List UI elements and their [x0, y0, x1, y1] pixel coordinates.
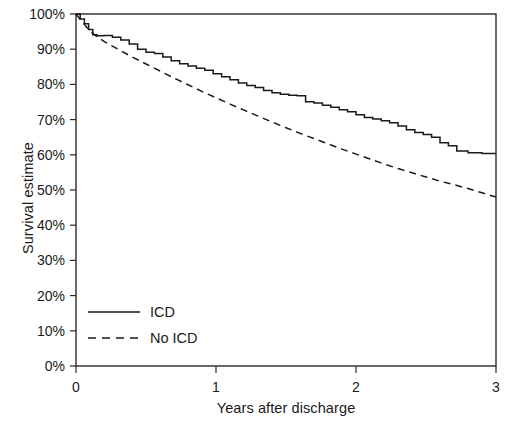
y-tick-label: 0%	[45, 358, 65, 374]
y-tick-label: 20%	[37, 288, 65, 304]
y-tick-label: 90%	[37, 41, 65, 57]
y-tick-label: 40%	[37, 217, 65, 233]
plot-frame	[76, 14, 496, 366]
x-tick-label: 0	[72, 379, 80, 395]
y-tick-label: 30%	[37, 252, 65, 268]
legend-label-no-icd: No ICD	[150, 330, 198, 346]
y-tick-label: 60%	[37, 147, 65, 163]
x-axis-title: Years after discharge	[76, 400, 496, 416]
y-tick-label: 80%	[37, 76, 65, 92]
x-tick-label: 3	[492, 379, 500, 395]
y-tick-label: 50%	[37, 182, 65, 198]
y-tick-label: 10%	[37, 323, 65, 339]
x-tick-label: 2	[352, 379, 360, 395]
y-tick-label: 100%	[29, 6, 65, 22]
survival-curve-chart: 0%10%20%30%40%50%60%70%80%90%100% 0123 I…	[0, 0, 505, 427]
y-axis-ticks: 0%10%20%30%40%50%60%70%80%90%100%	[29, 6, 76, 374]
x-tick-label: 1	[212, 379, 220, 395]
plot-area-svg: 0%10%20%30%40%50%60%70%80%90%100% 0123 I…	[0, 0, 505, 427]
x-axis-ticks: 0123	[72, 366, 500, 395]
y-tick-label: 70%	[37, 112, 65, 128]
y-axis-title: Survival estimate	[20, 88, 36, 308]
legend-label-icd: ICD	[150, 304, 175, 320]
